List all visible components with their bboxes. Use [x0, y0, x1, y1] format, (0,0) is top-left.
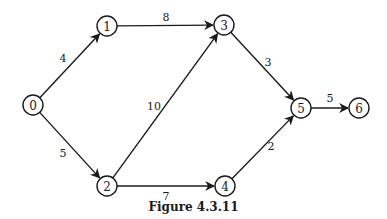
edge-4-5 — [232, 116, 293, 179]
edge-weight-label: 8 — [163, 11, 170, 24]
edge-0-1 — [40, 34, 100, 98]
node-label: 2 — [103, 180, 111, 194]
node-label: 6 — [355, 102, 363, 116]
arrow-icon — [40, 112, 100, 177]
edge-0-2 — [40, 112, 100, 177]
node-0: 0 — [23, 95, 43, 115]
node-6: 6 — [349, 98, 369, 118]
node-label: 3 — [220, 19, 228, 33]
edge-weight-label: 10 — [147, 100, 161, 113]
node-label: 1 — [103, 20, 111, 34]
node-label: 0 — [29, 99, 37, 113]
edge-2-3 — [113, 34, 218, 178]
node-5: 5 — [291, 98, 311, 118]
arrow-icon — [232, 116, 293, 179]
node-1: 1 — [97, 16, 117, 36]
edge-1-3 — [117, 25, 213, 26]
directed-graph: 458107325 0123456 — [0, 0, 387, 219]
edge-3-5 — [231, 32, 294, 100]
figure-caption: Figure 4.3.11 — [0, 200, 387, 214]
arrow-icon — [231, 32, 294, 100]
edge-weight-label: 5 — [60, 147, 67, 160]
arrow-icon — [113, 34, 218, 178]
edge-weight-label: 4 — [60, 52, 67, 65]
node-4: 4 — [215, 176, 235, 196]
node-2: 2 — [97, 176, 117, 196]
edge-weight-label: 3 — [265, 56, 272, 69]
node-label: 5 — [297, 102, 305, 116]
edge-weight-label: 2 — [268, 140, 275, 153]
node-3: 3 — [214, 15, 234, 35]
arrow-icon — [117, 25, 213, 26]
edge-weight-label: 5 — [327, 92, 334, 105]
arrow-icon — [40, 34, 100, 98]
node-label: 4 — [221, 180, 229, 194]
